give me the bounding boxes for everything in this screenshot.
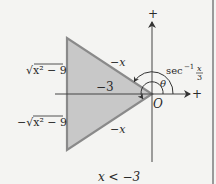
- upper-hypotenuse-label: −x: [110, 56, 126, 69]
- inverse-secant-diagram: + + O −x −x −3 √x² − 9 −√x² − 9 θ sec −1…: [0, 0, 216, 184]
- lower-height-label: −√x² − 9: [17, 116, 67, 129]
- theta-label: θ: [160, 78, 166, 89]
- sec-label: sec: [166, 65, 183, 76]
- origin-label: O: [153, 97, 163, 111]
- upper-height-label: √x² − 9: [26, 64, 67, 77]
- x-axis-plus-label: +: [192, 87, 202, 101]
- fraction-numerator: x: [197, 64, 202, 73]
- y-axis-plus-label: +: [148, 7, 158, 21]
- diagram-frame: + + O −x −x −3 √x² − 9 −√x² − 9 θ sec −1…: [0, 0, 216, 184]
- sec-exponent: −1: [184, 63, 194, 71]
- caption: x < −3: [98, 170, 141, 184]
- fraction-denominator: 3: [197, 73, 202, 82]
- lower-hypotenuse-label: −x: [110, 123, 126, 136]
- adjacent-side-label: −3: [96, 80, 114, 94]
